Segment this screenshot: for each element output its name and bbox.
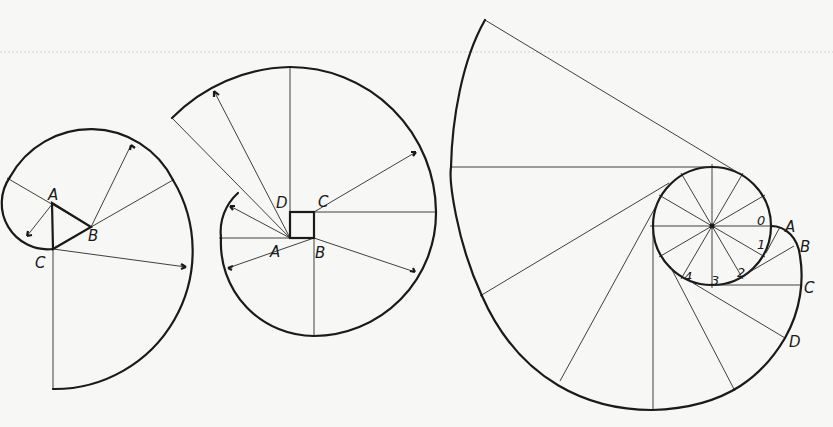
extension-line-bc [91, 180, 173, 227]
radius-line [314, 152, 416, 212]
spiral-arc-3 [314, 212, 436, 336]
tangent-line [485, 20, 737, 172]
label-d: D [789, 333, 801, 351]
radius-line [27, 203, 53, 236]
label-c: C [35, 254, 46, 272]
label-a: A [784, 218, 795, 236]
spiral-arc-2 [10, 129, 173, 180]
center-point [710, 224, 715, 229]
division-label-3: 3 [711, 273, 719, 288]
spiral-arc-1 [221, 193, 238, 238]
spiral-arc-2 [221, 238, 314, 336]
drawing-canvas: A B C D C A B [0, 0, 833, 427]
radius-line [214, 91, 290, 238]
square-abcd [290, 212, 314, 238]
triangle-involute-figure: A B C [2, 129, 193, 390]
tangent-line [693, 283, 785, 338]
division-label-1: 1 [757, 237, 765, 252]
label-d: D [276, 194, 288, 212]
arrowhead-icon [130, 145, 135, 150]
spiral-arc-5 [172, 67, 290, 118]
label-c: C [804, 279, 815, 297]
division-label-4: 4 [684, 269, 692, 284]
involute-curve [451, 20, 802, 410]
arrowhead-icon [228, 266, 233, 270]
label-b: B [315, 244, 325, 262]
label-b: B [88, 227, 98, 245]
label-a: A [269, 243, 280, 261]
tangent-line [560, 195, 662, 381]
spiral-arc-4 [290, 67, 436, 212]
radius-line [91, 145, 131, 227]
tangent-line [766, 227, 780, 253]
spiral-arc-3 [53, 180, 193, 389]
label-c: C [318, 193, 329, 211]
division-label-0: 0 [757, 213, 765, 228]
tangent-line [480, 183, 669, 296]
square-involute-figure: D C A B [172, 66, 436, 336]
radius-line [53, 249, 186, 267]
arrowhead-icon [410, 268, 415, 272]
triangle-abc [52, 203, 91, 249]
circle-involute-figure: 0 1 2 3 4 A B C D [451, 20, 815, 410]
label-a: A [47, 186, 58, 204]
label-b: B [800, 238, 810, 256]
division-label-2: 2 [737, 265, 745, 280]
radius-line [314, 238, 415, 272]
